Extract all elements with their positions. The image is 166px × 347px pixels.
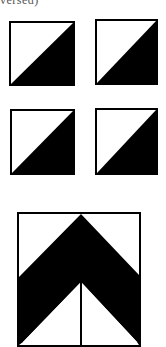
half-square-triangle-icon bbox=[97, 21, 156, 83]
clipped-caption: versed) bbox=[0, 0, 39, 8]
half-square-triangle-icon bbox=[11, 23, 73, 84]
tile-top-left bbox=[9, 21, 75, 86]
tile-middle-right bbox=[95, 108, 158, 175]
tile-middle-left bbox=[10, 109, 75, 175]
tile-top-right bbox=[95, 19, 158, 85]
half-square-triangle-icon bbox=[97, 110, 156, 173]
half-square-triangle-icon bbox=[12, 111, 73, 173]
chevron-block bbox=[17, 212, 141, 347]
chevron-up-icon bbox=[19, 214, 139, 345]
